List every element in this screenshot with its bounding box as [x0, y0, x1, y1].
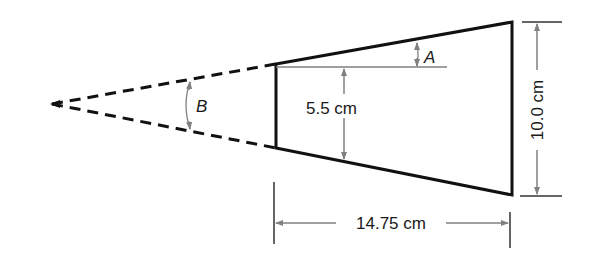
right-height-label: 10.0 cm [528, 80, 547, 140]
angle-a-label: A [423, 48, 435, 67]
inner-height-label-value: 5.5 cm [306, 99, 357, 118]
taper-diagram: A B 5.5 cm 10.0 cm 14.75 cm [0, 0, 595, 261]
angle-b-label: B [196, 97, 207, 116]
dashed-extension-lines [50, 64, 276, 148]
diagram-svg: A B 5.5 cm 10.0 cm 14.75 cm [0, 0, 595, 261]
apex-point [50, 100, 60, 108]
length-label: 14.75 cm [356, 214, 426, 233]
angle-b-marker [186, 82, 190, 129]
angle-a-marker [417, 43, 418, 66]
